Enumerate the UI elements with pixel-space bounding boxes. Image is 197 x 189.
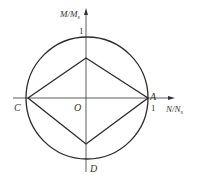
point-a-label: A [149, 91, 157, 102]
origin-label: O [74, 102, 81, 113]
point-c-label: C [14, 102, 21, 113]
point-d-label: D [89, 163, 98, 174]
y-tick-1: 1 [79, 26, 84, 36]
x-tick-1: 1 [151, 103, 156, 113]
interaction-diagram: M/Ms 1 A 1 N/Ns C O D [0, 0, 197, 189]
y-axis-arrow-icon [84, 8, 88, 15]
diamond-envelope [28, 58, 148, 144]
x-axis-label: N/Ns [165, 104, 184, 115]
x-axis-arrow-icon [168, 96, 175, 100]
y-axis-label: M/Ms [59, 9, 81, 20]
